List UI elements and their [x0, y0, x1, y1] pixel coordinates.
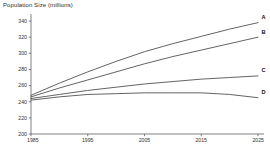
x-tick-label: 2025 — [252, 137, 264, 143]
y-tick-label: 280 — [18, 66, 27, 72]
series-label-d: D — [262, 89, 266, 95]
x-tick-label: 1995 — [82, 137, 94, 143]
y-tick-label: 220 — [18, 115, 27, 121]
x-axis: 19851995200520152025 — [27, 134, 264, 143]
x-tick-label: 1985 — [27, 137, 39, 143]
y-axis: 200220240260280300320340 — [18, 14, 31, 137]
plot-area: 200220240260280300320340 198519952005201… — [0, 0, 270, 154]
y-tick-label: 240 — [18, 99, 27, 105]
x-tick-label: 2005 — [139, 137, 151, 143]
series-label-b: B — [262, 29, 266, 35]
y-tick-label: 260 — [18, 82, 27, 88]
y-tick-label: 300 — [18, 50, 27, 56]
y-tick-label: 200 — [18, 131, 27, 137]
x-tick-label: 2015 — [195, 137, 207, 143]
series-labels: ABCD — [262, 14, 266, 95]
series-label-a: A — [262, 14, 266, 20]
series-line-c — [31, 76, 258, 99]
series-lines — [31, 23, 258, 100]
series-label-c: C — [262, 67, 266, 73]
series-line-a — [31, 23, 258, 96]
series-line-b — [31, 37, 258, 97]
population-line-chart: Population Size (millions) 2002202402602… — [0, 0, 270, 154]
y-tick-label: 340 — [18, 18, 27, 24]
y-tick-label: 320 — [18, 34, 27, 40]
